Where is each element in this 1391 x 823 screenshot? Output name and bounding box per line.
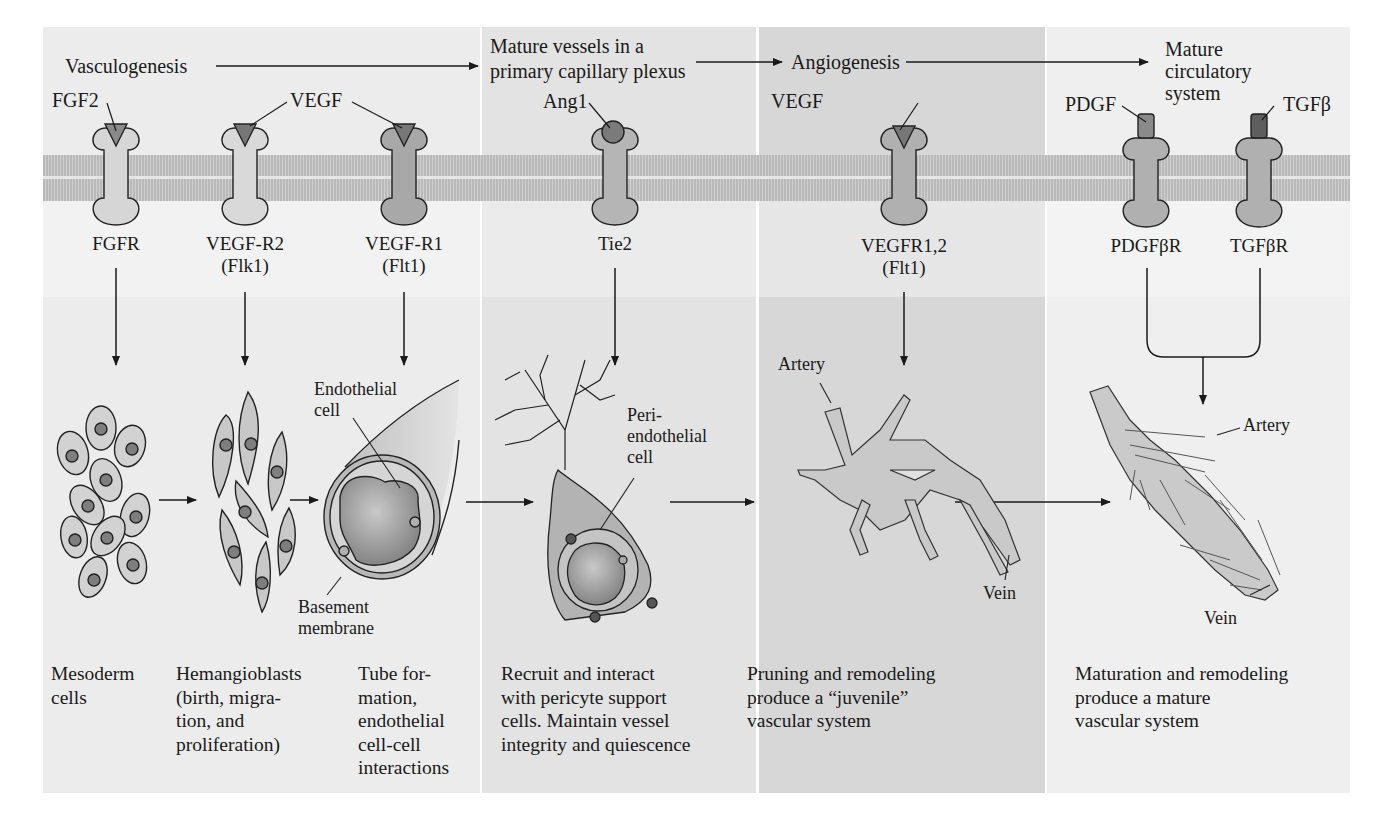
receptor-label-vegfr1: VEGF-R1 (Flt1) bbox=[354, 233, 454, 277]
juvenile-vascular-network bbox=[798, 395, 1020, 575]
receptor-icons bbox=[93, 114, 1282, 227]
receptor-label-pdgfbr: PDGFβR bbox=[1096, 235, 1196, 257]
caption-maturation-remodeling: Maturation and remodeling produce a matu… bbox=[1075, 662, 1288, 733]
caption-pruning-remodeling: Pruning and remodeling produce a “juveni… bbox=[747, 662, 935, 733]
label-artery-juvenile: Artery bbox=[778, 354, 825, 375]
caption-tube-formation: Tube for- mation, endothelial cell-cell … bbox=[358, 662, 449, 780]
label-artery-mature: Artery bbox=[1243, 415, 1290, 436]
ligand-fgf2: FGF2 bbox=[52, 89, 99, 111]
ligand-ang1: Ang1 bbox=[543, 90, 587, 112]
ligand-vegf: VEGF bbox=[290, 89, 342, 111]
caption-recruit-pericytes: Recruit and interact with pericyte suppo… bbox=[501, 662, 691, 756]
label-endothelial-cell: Endothelial cell bbox=[314, 379, 397, 421]
caption-hemangioblasts: Hemangioblasts (birth, migra- tion, and … bbox=[176, 662, 302, 756]
stage-mature-vessels: Mature vessels in a primary capillary pl… bbox=[490, 34, 686, 84]
ligand-vegf-angiogenesis: VEGF bbox=[771, 90, 823, 112]
label-vein-mature: Vein bbox=[1204, 608, 1237, 629]
stage-mature-circulatory-system: Mature circulatory system bbox=[1165, 38, 1252, 104]
ligand-tgfb: TGFβ bbox=[1283, 93, 1331, 115]
stage-vasculogenesis: Vasculogenesis bbox=[65, 55, 187, 77]
ligand-pdgf: PDGF bbox=[1065, 93, 1116, 115]
label-basement-membrane: Basement membrane bbox=[298, 597, 374, 639]
receptor-label-fgfr: FGFR bbox=[76, 233, 156, 255]
stage-angiogenesis: Angiogenesis bbox=[791, 51, 900, 73]
pericyte-cell bbox=[495, 355, 657, 622]
receptor-label-tie2: Tie2 bbox=[575, 233, 655, 255]
receptor-label-vegfr2: VEGF-R2 (Flk1) bbox=[195, 233, 295, 277]
receptor-label-tgfbr: TGFβR bbox=[1214, 235, 1304, 257]
label-vein-juvenile: Vein bbox=[983, 583, 1016, 604]
caption-mesoderm: Mesoderm cells bbox=[51, 662, 134, 709]
signal-arrows bbox=[116, 268, 1260, 404]
hemangioblast-cells bbox=[213, 392, 296, 612]
receptor-label-vegfr12: VEGFR1,2 (Flt1) bbox=[849, 235, 959, 279]
label-peri-endothelial-cell: Peri- endothelial cell bbox=[627, 405, 707, 468]
mesoderm-cells bbox=[53, 406, 154, 601]
